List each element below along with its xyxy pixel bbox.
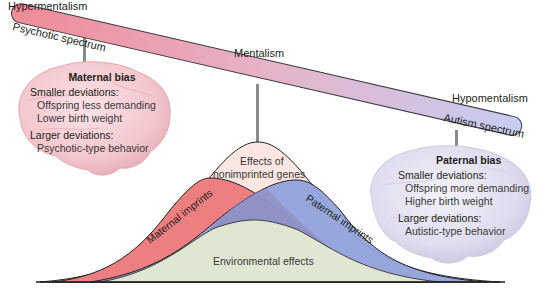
paternal-smaller-item: Higher birth weight	[398, 195, 529, 208]
maternal-smaller-heading: Smaller deviations:	[30, 86, 156, 99]
paternal-bias-text: Paternal bias Smaller deviations: Offspr…	[398, 154, 529, 238]
maternal-bias-title: Maternal bias	[30, 71, 156, 84]
maternal-smaller-item: Offspring less demanding	[30, 99, 156, 112]
center-stem	[256, 84, 259, 142]
nonimprinted-label-line1: Effects of	[240, 155, 284, 167]
maternal-larger-heading: Larger deviations:	[30, 129, 156, 142]
paternal-bias-title: Paternal bias	[398, 154, 529, 167]
maternal-smaller-item: Lower birth weight	[30, 112, 156, 125]
hypermentalism-label: Hypermentalism	[8, 0, 87, 12]
maternal-bias-text: Maternal bias Smaller deviations: Offspr…	[30, 71, 156, 155]
maternal-larger-item: Psychotic-type behavior	[30, 142, 156, 155]
paternal-larger-item: Autistic-type behavior	[398, 225, 529, 238]
mentalism-label: Mentalism	[234, 47, 284, 59]
hypomentalism-label: Hypomentalism	[452, 92, 528, 104]
nonimprinted-label-line2: nonimprinted genes	[213, 168, 305, 180]
paternal-larger-heading: Larger deviations:	[398, 212, 529, 225]
paternal-smaller-item: Offspring more demanding	[398, 182, 529, 195]
paternal-smaller-heading: Smaller deviations:	[398, 169, 529, 182]
environmental-effects-label: Environmental effects	[213, 255, 314, 267]
